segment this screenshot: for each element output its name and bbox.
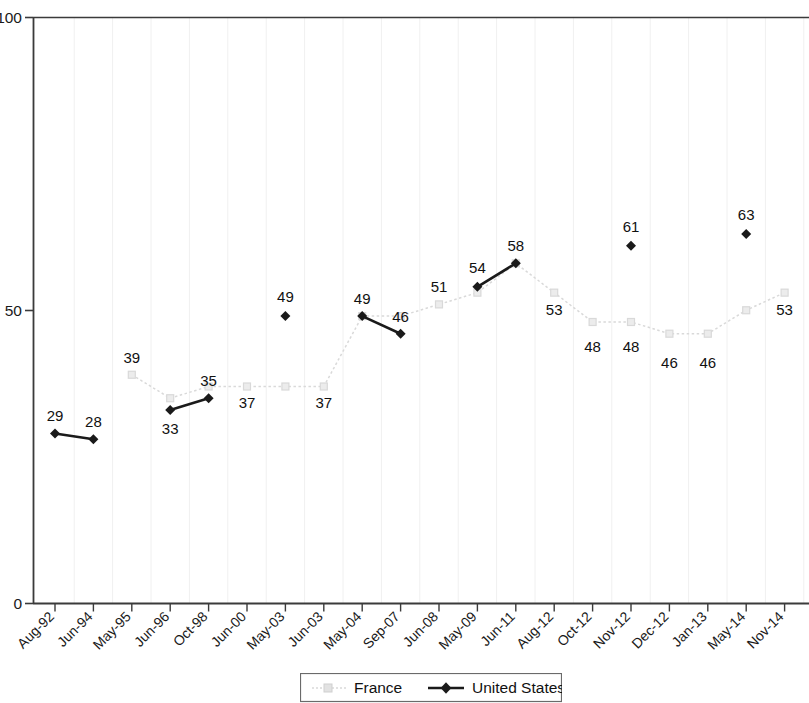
x-axis-label-nov14: Nov-14 [743, 608, 786, 651]
data-label: 37 [239, 394, 256, 411]
legend-label-united-states: United States [472, 679, 562, 696]
y-axis-label-0: 0 [13, 595, 22, 612]
data-label: 49 [354, 290, 371, 307]
data-label: 61 [623, 218, 640, 235]
data-point-marker [781, 289, 788, 296]
data-label: 63 [738, 206, 755, 223]
data-label: 33 [162, 420, 179, 437]
data-label: 48 [584, 338, 601, 355]
legend-swatch-france-marker [324, 684, 332, 692]
data-label: 53 [546, 301, 563, 318]
x-axis-label-jun00: Jun-00 [208, 608, 250, 650]
data-point-marker [551, 289, 558, 296]
data-label: 58 [507, 237, 524, 254]
x-axis-label-jan13: Jan-13 [668, 608, 710, 650]
data-label: 48 [623, 338, 640, 355]
data-point-marker [282, 383, 289, 390]
x-axis-label-may95: May-95 [90, 608, 134, 652]
x-axis-label-aug12: Aug-12 [513, 608, 556, 651]
legend-label-france: France [354, 679, 402, 696]
x-axis-label-oct12: Oct-12 [554, 608, 595, 649]
data-label: 28 [85, 413, 102, 430]
data-label: 51 [431, 278, 448, 295]
data-point-marker [436, 301, 443, 308]
x-axis-label-jun03: Jun-03 [284, 608, 326, 650]
data-point-marker [743, 307, 750, 314]
data-label: 29 [47, 407, 64, 424]
data-point-marker [704, 330, 711, 337]
data-point-marker [589, 318, 596, 325]
data-label: 46 [392, 308, 409, 325]
x-axis-label-dec12: Dec-12 [628, 608, 671, 651]
data-label: 54 [469, 259, 486, 276]
x-axis-label-oct98: Oct-98 [170, 608, 211, 649]
data-label: 53 [776, 301, 793, 318]
x-axis-label-may04: May-04 [320, 608, 364, 652]
data-label: 46 [699, 354, 716, 371]
x-axis-label-jun94: Jun-94 [54, 608, 96, 650]
x-axis-label-may09: May-09 [435, 608, 479, 652]
x-axis-label-jun96: Jun-96 [131, 608, 173, 650]
x-axis-label-jun08: Jun-08 [400, 608, 442, 650]
x-axis-label-jun11: Jun-11 [477, 608, 518, 649]
data-point-marker [320, 383, 327, 390]
data-label: 39 [123, 349, 140, 366]
x-axis-label-aug92: Aug-92 [14, 608, 57, 651]
y-axis-label-100: 100 [0, 9, 22, 26]
x-axis-ticks [55, 604, 785, 612]
y-axis-label-50: 50 [5, 302, 23, 319]
data-label: 35 [200, 372, 217, 389]
data-label: 49 [277, 288, 294, 305]
x-axis-tick-labels: Aug-92Jun-94May-95Jun-96Oct-98Jun-00May-… [14, 608, 787, 652]
data-point-marker [167, 395, 174, 402]
x-axis-label-may14: May-14 [704, 608, 748, 652]
x-axis-label-may03: May-03 [243, 608, 287, 652]
x-axis-label-sep07: Sep-07 [359, 608, 402, 651]
chart-legend: France United States [300, 673, 562, 703]
data-label: 37 [315, 394, 332, 411]
data-point-marker [128, 371, 135, 378]
data-point-marker [244, 383, 251, 390]
data-point-marker [628, 318, 635, 325]
data-label: 46 [661, 354, 678, 371]
x-axis-label-nov12: Nov-12 [590, 608, 633, 651]
data-point-marker [666, 330, 673, 337]
